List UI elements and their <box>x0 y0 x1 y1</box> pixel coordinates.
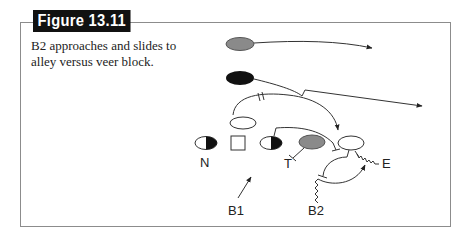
linebacker-icon <box>230 117 256 129</box>
center-square-icon <box>231 136 245 150</box>
gray-tackle-icon <box>299 135 325 149</box>
end-veer-squiggle <box>357 154 379 164</box>
tackle-block <box>293 148 304 158</box>
label-n: N <box>200 155 209 170</box>
label-e: E <box>382 156 391 171</box>
b1-route <box>238 177 251 198</box>
gray-receiver-route <box>254 41 372 48</box>
nose-player-icon <box>195 137 217 150</box>
label-t: T <box>284 156 292 171</box>
black-receiver-icon <box>226 71 254 85</box>
end-player-icon <box>338 136 364 150</box>
play-diagram: N T E B1 B2 <box>0 0 469 241</box>
label-b2: B2 <box>308 203 324 218</box>
gray-receiver-icon <box>226 38 254 51</box>
tackle-player-icon <box>260 137 282 150</box>
end-block-route <box>323 150 349 176</box>
black-receiver-route <box>254 79 422 106</box>
label-b1: B1 <box>228 203 244 218</box>
b2-route <box>315 165 365 203</box>
